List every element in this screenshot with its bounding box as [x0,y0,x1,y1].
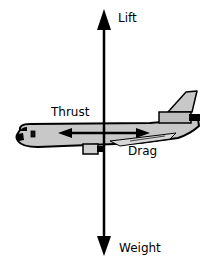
lift-arrow-icon [97,9,111,30]
weight-label: Weight [119,242,161,254]
lift-label: Lift [118,12,137,24]
drag-label: Drag [128,145,157,157]
thrust-label: Thrust [51,106,89,118]
forces-diagram [0,0,210,267]
airplane-icon [16,91,200,154]
weight-arrow-icon [97,236,111,256]
